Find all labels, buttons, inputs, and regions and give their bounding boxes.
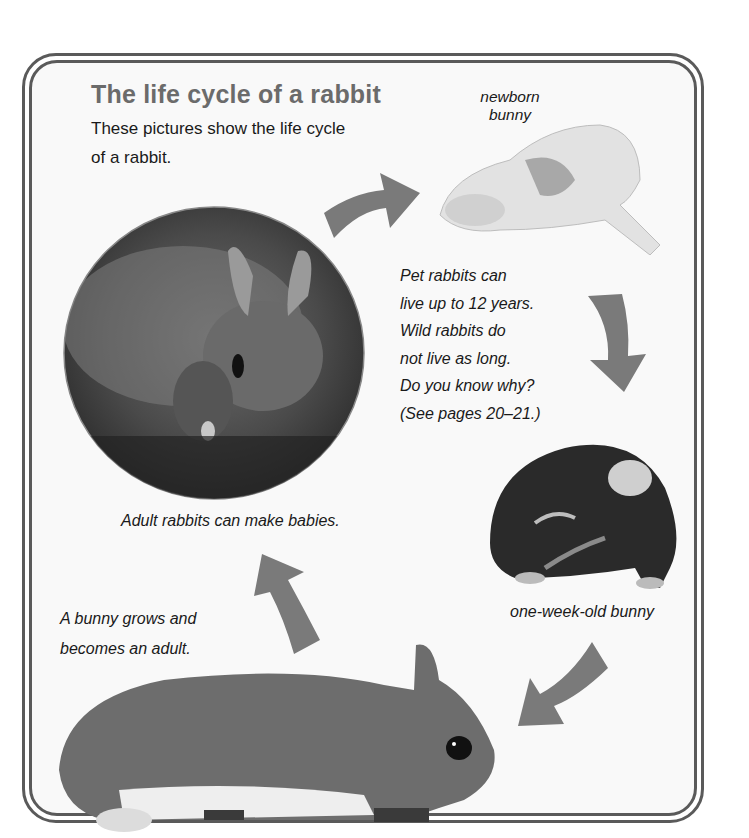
lifespan-facts: Pet rabbits can live up to 12 years. Wil… — [400, 262, 541, 427]
arrow-down-left-icon — [508, 642, 608, 734]
arrow-down-icon — [586, 294, 648, 396]
facts-line: not live as long. — [400, 345, 541, 373]
one-week-old-bunny-photo — [485, 428, 685, 593]
adult-rabbit-photo — [44, 640, 504, 838]
facts-line: Do you know why? — [400, 372, 541, 400]
arrow-up-right-icon — [322, 168, 422, 244]
facts-line: Pet rabbits can — [400, 262, 541, 290]
newborn-bunny-photo — [430, 105, 675, 255]
facts-line: (See pages 20–21.) — [400, 400, 541, 428]
newborn-caption: newborn bunny — [465, 88, 555, 124]
intro-text: These pictures show the life cycle of a … — [91, 114, 351, 172]
page-title: The life cycle of a rabbit — [91, 80, 381, 109]
grows-line: becomes an adult. — [60, 634, 196, 664]
one-week-caption: one-week-old bunny — [510, 603, 654, 621]
arrow-up-left-icon — [242, 554, 322, 658]
adult-rabbits-circle-photo — [63, 206, 365, 500]
facts-line: live up to 12 years. — [400, 290, 541, 318]
grows-line: A bunny grows and — [60, 604, 196, 634]
adult-babies-caption: Adult rabbits can make babies. — [121, 512, 340, 530]
grows-caption: A bunny grows and becomes an adult. — [60, 604, 196, 664]
facts-line: Wild rabbits do — [400, 317, 541, 345]
